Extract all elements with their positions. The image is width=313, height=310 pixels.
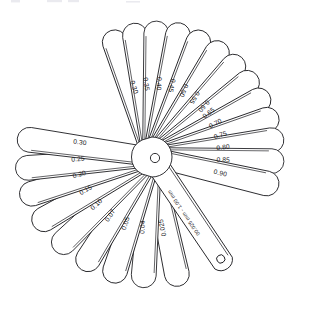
blade-thickness-label: 0.25 (71, 154, 85, 162)
blade-thickness-label: 0.04 (138, 220, 146, 234)
blade-thickness-label: 0.40 (156, 77, 163, 91)
scan-edge-artifacts (11, 0, 140, 3)
feeler-gauge-illustration: 00.025 mm - 1.00 mm 0.300.350.400.450.50… (0, 0, 313, 310)
pivot-rivet-hole (150, 153, 159, 162)
pivot-hub (131, 137, 172, 177)
blade-thickness-label: 0.85 (216, 156, 230, 163)
drawing-canvas: 00.025 mm - 1.00 mm 0.300.350.400.450.50… (0, 0, 313, 310)
